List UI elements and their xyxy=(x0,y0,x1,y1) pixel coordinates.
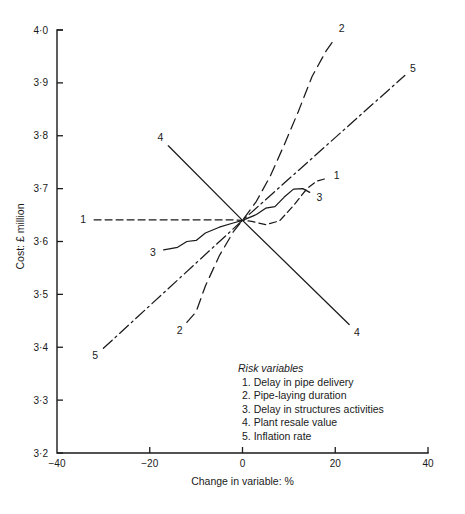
series-line-4 xyxy=(168,146,349,325)
series-endpoint-label-5-end: 5 xyxy=(410,62,416,74)
legend-item-3: 3. Delay in structures activities xyxy=(242,403,384,415)
y-tick-label: 3·8 xyxy=(34,130,49,141)
series-endpoint-label-1-start: 1 xyxy=(80,213,86,225)
x-tick-label: 40 xyxy=(422,458,434,469)
legend-title: Risk variables xyxy=(238,362,304,374)
chart-series-labels: 1122334455 xyxy=(80,22,416,361)
series-endpoint-label-4-end: 4 xyxy=(354,326,360,338)
series-endpoint-label-3-start: 3 xyxy=(150,246,156,258)
series-endpoint-label-5-start: 5 xyxy=(92,349,98,361)
x-tick-label: 20 xyxy=(330,458,342,469)
y-axis-title: Cost: £ million xyxy=(14,203,26,269)
chart-canvas: 4·03·93·83·73·63·53·43·33·2−40−2002040Ch… xyxy=(0,0,465,514)
chart-legend: Risk variables1. Delay in pipe delivery2… xyxy=(238,362,384,442)
y-tick-label: 3·5 xyxy=(34,289,49,300)
y-tick-label: 3·6 xyxy=(34,236,49,247)
legend-item-5: 5. Inflation rate xyxy=(242,430,312,442)
chart-series-group xyxy=(94,38,405,348)
x-tick-label: −40 xyxy=(49,458,66,469)
series-line-5 xyxy=(103,75,404,348)
series-endpoint-label-4-start: 4 xyxy=(158,131,164,143)
legend-item-2: 2. Pipe-laying duration xyxy=(242,389,347,401)
y-tick-label: 3·3 xyxy=(34,395,49,406)
y-tick-label: 3·4 xyxy=(34,342,49,353)
y-tick-label: 4·0 xyxy=(34,25,49,36)
series-endpoint-label-2-end: 2 xyxy=(339,22,345,34)
x-tick-label: −20 xyxy=(141,458,158,469)
series-line-2 xyxy=(187,38,335,322)
legend-item-1: 1. Delay in pipe delivery xyxy=(242,376,354,388)
sensitivity-spider-chart: 4·03·93·83·73·63·53·43·33·2−40−2002040Ch… xyxy=(0,0,465,514)
x-axis-title: Change in variable: % xyxy=(191,475,294,487)
y-tick-label: 3·2 xyxy=(34,448,49,459)
series-endpoint-label-1-end: 1 xyxy=(334,169,340,181)
chart-axes: 4·03·93·83·73·63·53·43·33·2−40−2002040Ch… xyxy=(14,25,434,488)
series-endpoint-label-2-start: 2 xyxy=(177,324,183,336)
series-endpoint-label-3-end: 3 xyxy=(317,191,323,203)
series-line-1 xyxy=(94,179,326,225)
y-tick-label: 3·7 xyxy=(34,183,49,194)
y-tick-label: 3·9 xyxy=(34,77,49,88)
legend-item-4: 4. Plant resale value xyxy=(242,416,337,428)
x-tick-label: 0 xyxy=(240,458,246,469)
